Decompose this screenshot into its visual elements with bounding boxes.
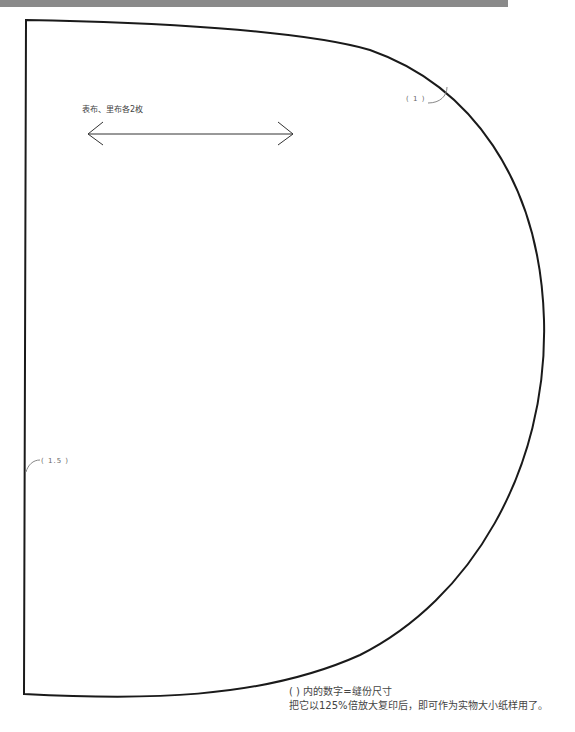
note-seam-legend: ( ) 内的数字=缝份尺寸 [289, 683, 392, 698]
note-enlarge-instruction: 把它以125%倍放大复印后，即可作为实物大小纸样用了。 [289, 697, 548, 712]
seam-leader-top [428, 87, 447, 103]
pattern-outline [24, 20, 544, 697]
seam-leader-left [26, 460, 40, 472]
grain-line-arrow-icon [88, 122, 293, 145]
seam-allowance-left-label: ( 1.5 ) [41, 457, 69, 465]
seam-allowance-top-label: ( 1 ) [406, 95, 425, 103]
grain-line-label: 表布、里布各2枚 [82, 103, 143, 114]
